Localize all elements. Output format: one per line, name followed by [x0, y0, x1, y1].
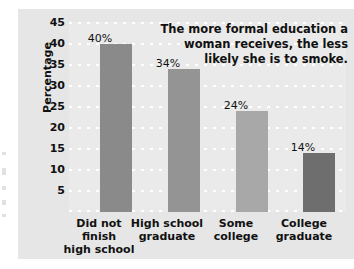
x-axis-label-some-college: Some college — [199, 218, 273, 244]
x-axis-label-did-not-finish-high-school: Did not finish high school — [60, 218, 138, 257]
chart-annotation: The more formal education a woman receiv… — [158, 22, 348, 68]
bar-some-college[interactable] — [236, 111, 268, 212]
bar-college-graduate[interactable] — [303, 153, 335, 212]
y-axis-tick-25: 25 — [35, 101, 65, 112]
y-axis-tick-15: 15 — [35, 143, 65, 154]
x-axis-label-college-graduate: College graduate — [264, 218, 344, 244]
y-axis-tick-40: 40 — [35, 38, 65, 49]
bar-did-not-finish-high-school[interactable] — [100, 44, 132, 212]
x-axis-label-high-school-graduate: High school graduate — [128, 218, 206, 244]
y-axis-tick-30: 30 — [35, 80, 65, 91]
bar-value-label-4: 14% — [273, 142, 333, 153]
bar-value-label-1: 40% — [70, 33, 130, 44]
y-axis-tick-35: 35 — [35, 59, 65, 70]
bar-high-school-graduate[interactable] — [168, 69, 200, 212]
y-axis-tick-10: 10 — [35, 164, 65, 175]
y-axis-tick-20: 20 — [35, 122, 65, 133]
bar-value-label-3: 24% — [206, 100, 266, 111]
bar-chart: Percentage 45 40 35 30 25 20 15 10 5 40%… — [18, 9, 354, 259]
page-edge-artifacts — [0, 0, 14, 269]
y-axis-tick-5: 5 — [35, 185, 65, 196]
y-axis-tick-45: 45 — [35, 17, 65, 28]
